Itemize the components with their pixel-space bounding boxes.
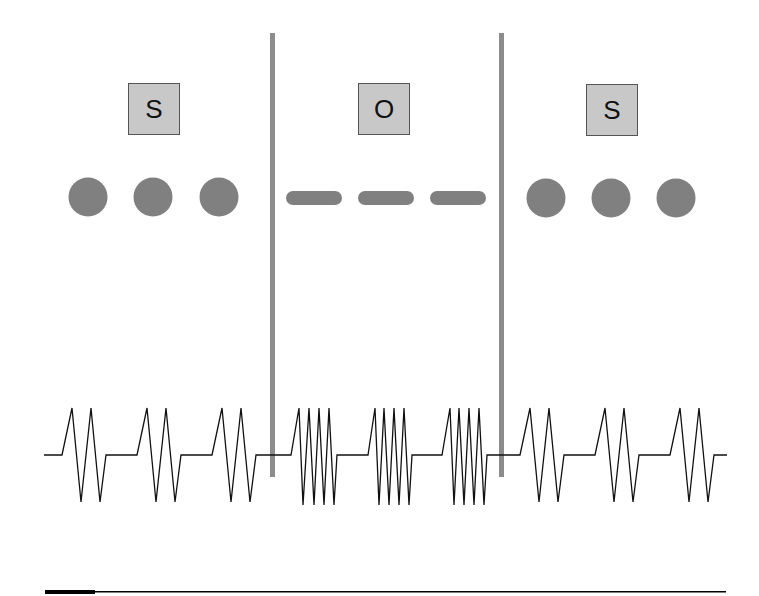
bottom-rule-marker (45, 590, 95, 594)
dot-icon (592, 179, 631, 218)
dot-group-left (69, 178, 239, 217)
dash-icon (430, 191, 486, 205)
region-label-left: S (145, 94, 162, 125)
dash-icon (286, 191, 342, 205)
region-label-box-middle: O (358, 83, 410, 135)
dash-icon (358, 191, 414, 205)
dot-icon (200, 178, 239, 217)
dot-icon (527, 179, 566, 218)
region-label-right: S (603, 95, 620, 126)
region-label-box-left: S (128, 83, 180, 135)
dot-icon (134, 178, 173, 217)
region-label-middle: O (374, 94, 394, 125)
dot-icon (657, 179, 696, 218)
dot-group-right (527, 179, 696, 218)
dot-icon (69, 178, 108, 217)
region-label-box-right: S (586, 84, 638, 136)
bottom-rule (45, 591, 726, 593)
sos-diagram: S O S (0, 0, 759, 596)
divider-line-right (499, 33, 504, 477)
divider-line-left (270, 33, 275, 477)
dash-group-middle (286, 191, 486, 205)
signal-waveform (44, 408, 727, 505)
